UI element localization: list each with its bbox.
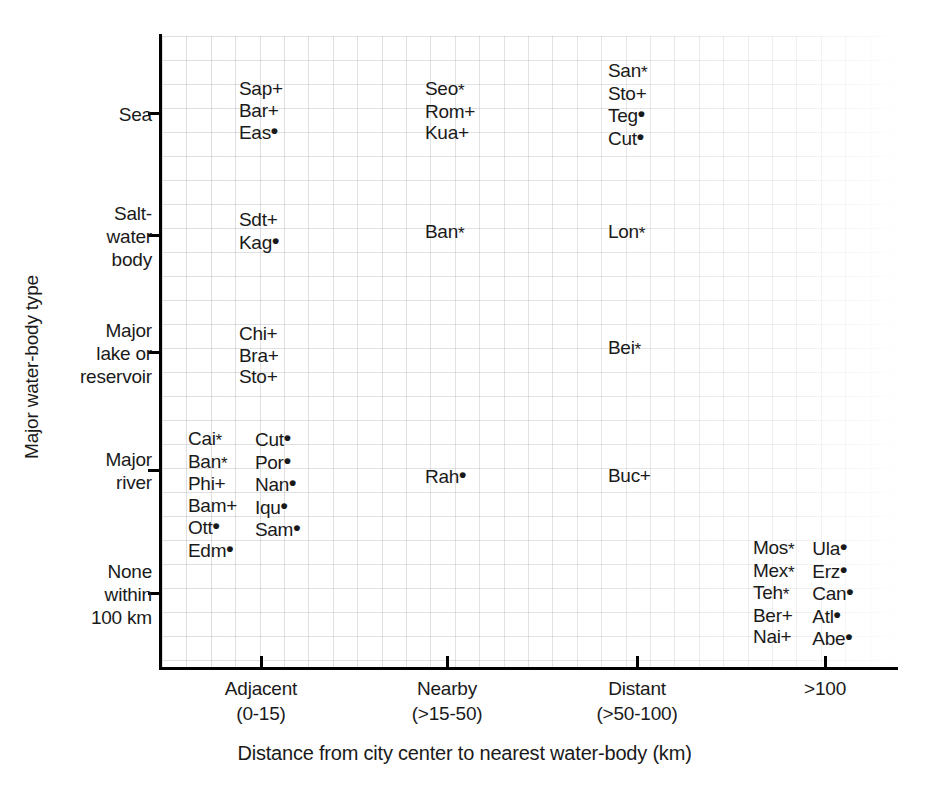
data-point: Erz• <box>812 560 853 583</box>
data-cluster-salt-adjacent: Sdt+Kag• <box>239 209 279 253</box>
data-point-label: Mex <box>753 560 788 581</box>
data-point-star-marker-icon: * <box>635 339 641 361</box>
data-point-plus-marker-icon: + <box>640 465 651 487</box>
data-point: Edm• <box>188 539 237 562</box>
data-point-plus-marker-icon: + <box>272 78 283 100</box>
y-axis-label-0: Sea <box>2 103 152 126</box>
data-cluster-river-distant: Buc+ <box>608 465 651 487</box>
data-point-label: Sdt <box>239 209 267 230</box>
data-point: Seo* <box>425 78 475 101</box>
data-point-label: Ber <box>753 605 782 626</box>
data-point-label: Rah <box>425 466 459 487</box>
data-cluster-column: Buc+ <box>608 465 651 487</box>
data-cluster-column: Rah• <box>425 465 466 488</box>
data-point-star-marker-icon: * <box>221 453 227 475</box>
data-point: Rah• <box>425 465 466 488</box>
x-axis-label-range: (>15-50) <box>347 701 547 726</box>
data-point-label: Teg <box>608 105 638 126</box>
data-point-label: Chi <box>239 323 267 344</box>
data-point: Rom+ <box>425 101 475 123</box>
data-point: Nan• <box>255 473 300 496</box>
data-point-dot-marker-icon: • <box>284 427 291 449</box>
data-point-dot-marker-icon: • <box>840 536 847 558</box>
data-point-label: Kua <box>425 122 458 143</box>
data-cluster-column: Seo*Rom+Kua+ <box>425 78 475 144</box>
data-point: Sto+ <box>239 366 278 388</box>
data-point: Ott• <box>188 516 237 539</box>
data-point: Bam+ <box>188 495 237 517</box>
data-point-label: Nai <box>753 626 781 647</box>
data-point-label: Lon <box>608 221 639 242</box>
data-point-star-marker-icon: * <box>458 223 464 245</box>
data-point: Bra+ <box>239 345 278 367</box>
data-point: Can• <box>812 582 853 605</box>
data-point-dot-marker-icon: • <box>845 626 852 648</box>
data-point: Buc+ <box>608 465 651 487</box>
data-point-star-marker-icon: * <box>783 584 789 606</box>
data-point-label: Sto <box>608 83 636 104</box>
data-point-dot-marker-icon: • <box>212 515 219 537</box>
data-cluster-none-gt100: Mos*Mex*Teh*Ber+Nai+Ula•Erz•Can•Atl•Abe• <box>753 537 853 650</box>
data-point-label: Cai <box>188 428 216 449</box>
data-cluster-column: Mos*Mex*Teh*Ber+Nai+ <box>753 537 794 648</box>
data-point: Ula• <box>812 537 853 560</box>
data-point-dot-marker-icon: • <box>289 472 296 494</box>
data-point: Teh* <box>753 582 794 605</box>
data-cluster-salt-distant: Lon* <box>608 221 645 244</box>
data-point-dot-marker-icon: • <box>638 103 645 125</box>
data-point-label: San <box>608 60 641 81</box>
x-axis-tick-0 <box>260 656 263 669</box>
x-axis-label-range: (>50-100) <box>537 701 737 726</box>
x-axis-tick-3 <box>824 656 827 669</box>
data-cluster-column: Bei* <box>608 337 641 360</box>
data-point: Phi+ <box>188 473 237 495</box>
data-point-star-marker-icon: * <box>458 80 464 102</box>
data-point-label: Sap <box>239 78 272 99</box>
data-point-star-marker-icon: * <box>641 62 647 84</box>
data-cluster-salt-nearby: Ban* <box>425 221 464 244</box>
data-point-plus-marker-icon: + <box>781 626 792 648</box>
data-point-label: Erz <box>812 561 840 582</box>
data-point: Lon* <box>608 221 645 244</box>
data-point-star-marker-icon: * <box>639 223 645 245</box>
x-axis-label-main: Nearby <box>347 676 547 701</box>
data-point: Cut• <box>255 428 300 451</box>
data-cluster-column: Sdt+Kag• <box>239 209 279 253</box>
data-point: Sap+ <box>239 78 283 100</box>
data-point-dot-marker-icon: • <box>271 120 278 142</box>
data-point-plus-marker-icon: + <box>267 209 278 231</box>
data-cluster-column: Ula•Erz•Can•Atl•Abe• <box>812 537 853 650</box>
y-axis-label-line: Sea <box>2 103 152 126</box>
data-cluster-sea-nearby: Seo*Rom+Kua+ <box>425 78 475 144</box>
data-point-label: Bei <box>608 337 635 358</box>
data-point: Mos* <box>753 537 794 560</box>
data-point-plus-marker-icon: + <box>267 323 278 345</box>
x-axis-title: Distance from city center to nearest wat… <box>0 742 929 765</box>
data-point-label: Kag <box>239 232 272 253</box>
data-point-plus-marker-icon: + <box>267 366 278 388</box>
x-axis-tick-2 <box>636 656 639 669</box>
data-point-dot-marker-icon: • <box>280 495 287 517</box>
data-point-plus-marker-icon: + <box>268 345 279 367</box>
data-point-label: Abe <box>812 628 845 649</box>
data-point: Abe• <box>812 627 853 650</box>
data-point-label: Mos <box>753 537 788 558</box>
x-axis-label-main: Adjacent <box>161 676 361 701</box>
data-point-label: Ula <box>812 538 840 559</box>
data-point-dot-marker-icon: • <box>272 230 279 252</box>
chart-figure: SeaSalt-waterbodyMajorlake orreservoirMa… <box>0 0 929 786</box>
data-point: Bar+ <box>239 100 283 122</box>
x-axis-label-0: Adjacent(0-15) <box>161 676 361 726</box>
data-point: Bei* <box>608 337 641 360</box>
data-point-label: Eas <box>239 122 271 143</box>
data-point: Ber+ <box>753 605 794 627</box>
data-point-label: Bar <box>239 100 268 121</box>
data-point-plus-marker-icon: + <box>215 473 226 495</box>
data-point-label: Ban <box>425 221 458 242</box>
data-point-label: Edm <box>188 540 226 561</box>
data-point: Cai* <box>188 428 237 451</box>
data-point-label: Bam <box>188 495 226 516</box>
data-point-plus-marker-icon: + <box>636 83 647 105</box>
data-point: Sam• <box>255 518 300 541</box>
data-point: Por• <box>255 451 300 474</box>
